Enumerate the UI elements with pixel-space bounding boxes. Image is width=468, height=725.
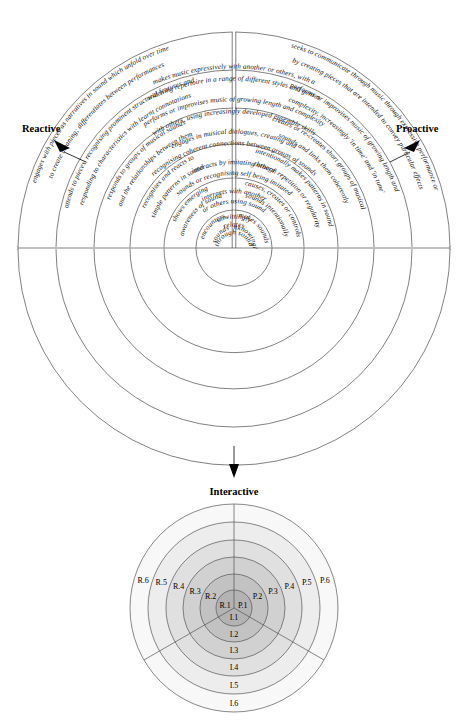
legend-label-I.5: I.5 <box>230 681 239 690</box>
legend-label-I.2: I.2 <box>230 630 239 639</box>
legend-label-I.6: I.6 <box>230 699 239 708</box>
proactive-axis-label: Proactive <box>396 123 439 134</box>
legend-circle-svg: R.1R.2R.3R.4R.5R.6P.1P.2P.3P.4P.5P.6I.1I… <box>0 498 468 725</box>
legend-label-I.1: I.1 <box>230 613 239 622</box>
ring-arc-interactive <box>130 249 338 353</box>
legend-label-R.4: R.4 <box>173 582 184 591</box>
reactive-axis-label: Reactive <box>22 123 61 134</box>
legend-label-R.2: R.2 <box>205 592 216 601</box>
ring-arc-interactive <box>94 249 374 389</box>
legend-label-P.1: P.1 <box>238 601 248 610</box>
legend-label-P.6: P.6 <box>320 576 330 585</box>
arc-text-labels: encounterssoundsshows emergingawareness … <box>0 0 441 249</box>
main-circle-svg: encounterssoundsshows emergingawareness … <box>0 0 468 500</box>
legend-label-R.6: R.6 <box>137 576 148 585</box>
legend-label-R.1: R.1 <box>220 601 231 610</box>
interactive-arrow-head <box>229 464 239 478</box>
ring-arc-interactive <box>56 249 412 427</box>
legend-label-I.4: I.4 <box>230 663 239 672</box>
levels-legend-diagram: R.1R.2R.3R.4R.5R.6P.1P.2P.3P.4P.5P.6I.1I… <box>0 498 468 725</box>
legend-label-R.3: R.3 <box>189 587 200 596</box>
ring-arc-interactive <box>164 248 304 318</box>
legend-label-P.2: P.2 <box>253 592 263 601</box>
interactive-axis-label: Interactive <box>210 486 259 497</box>
legend-label-R.5: R.5 <box>156 578 167 587</box>
legend-label-P.4: P.4 <box>285 582 295 591</box>
ring-arc-interactive <box>196 248 272 286</box>
legend-label-P.5: P.5 <box>302 578 312 587</box>
interactive-axis-annotation: Interactive <box>210 446 259 497</box>
legend-label-P.3: P.3 <box>268 587 278 596</box>
legend-label-I.3: I.3 <box>230 646 239 655</box>
ring-arc-interactive <box>18 249 450 465</box>
sounds-of-intent-main-diagram: encounterssoundsshows emergingawareness … <box>0 0 468 500</box>
